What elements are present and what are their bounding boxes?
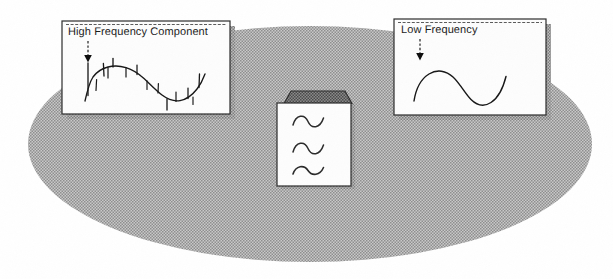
low-frequency-caption: Low Frequency — [401, 24, 478, 36]
high-frequency-caption: High Frequency Component — [68, 26, 208, 38]
figure-canvas — [0, 0, 613, 279]
signal-decomposition-figure: High Frequency Component Low Frequency — [0, 0, 613, 279]
scan-grain-overlay — [0, 0, 613, 279]
